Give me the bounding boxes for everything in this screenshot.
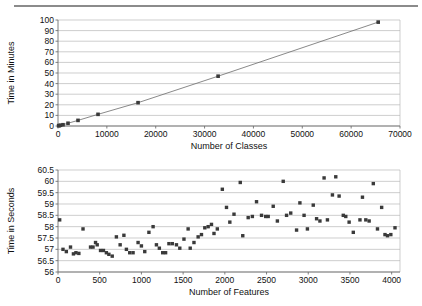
- data-point-marker: [210, 223, 213, 226]
- data-point-marker: [158, 247, 161, 250]
- data-point-marker: [118, 243, 121, 246]
- data-point-marker: [175, 243, 178, 246]
- data-point-marker: [364, 218, 367, 221]
- data-point-marker: [334, 175, 337, 178]
- data-point-marker: [151, 225, 154, 228]
- data-point-marker: [76, 119, 80, 123]
- data-point-marker: [212, 232, 215, 235]
- data-point-marker: [380, 206, 383, 209]
- data-point-marker: [182, 237, 185, 240]
- y-tick-label: 50: [45, 68, 55, 78]
- data-point-marker: [347, 220, 350, 223]
- x-tick-label: 70000: [388, 129, 412, 139]
- data-point-marker: [58, 218, 61, 221]
- data-point-marker: [186, 227, 189, 230]
- data-point-marker: [267, 215, 270, 218]
- x-tick-label: 30000: [193, 129, 217, 139]
- data-point-marker: [312, 203, 315, 206]
- data-point-marker: [241, 234, 244, 237]
- data-point-marker: [246, 216, 249, 219]
- data-point-marker: [282, 180, 285, 183]
- data-point-marker: [232, 213, 235, 216]
- x-axis-title: Number of Features: [189, 287, 270, 297]
- data-point-marker: [221, 188, 224, 191]
- data-point-marker: [206, 225, 209, 228]
- data-point-marker: [228, 220, 231, 223]
- data-point-marker: [358, 218, 361, 221]
- y-axis-title: Time in Minutes: [6, 41, 16, 105]
- data-point-marker: [143, 250, 146, 253]
- data-point-marker: [147, 231, 150, 234]
- x-tick-label: 20000: [144, 129, 168, 139]
- data-point-marker: [189, 247, 192, 250]
- data-point-marker: [171, 242, 174, 245]
- y-tick-label: 60: [45, 176, 55, 186]
- data-point-marker: [203, 226, 206, 229]
- data-point-marker: [164, 251, 167, 254]
- data-point-marker: [367, 219, 370, 222]
- data-point-marker: [251, 215, 254, 218]
- data-point-marker: [192, 241, 195, 244]
- data-point-marker: [255, 200, 258, 203]
- chart-top-canvas: 0102030405060708090100010000200003000040…: [0, 10, 422, 153]
- data-point-marker: [295, 228, 298, 231]
- data-point-marker: [200, 233, 203, 236]
- chart-bottom-canvas: 5656.55757.55858.55959.56060.50500100015…: [0, 160, 422, 306]
- data-point-marker: [393, 226, 396, 229]
- data-point-marker: [155, 243, 158, 246]
- x-tick-label: 3000: [299, 275, 318, 285]
- data-point-marker: [61, 248, 64, 251]
- y-tick-label: 58.5: [37, 210, 54, 220]
- x-tick-label: 50000: [290, 129, 314, 139]
- data-point-marker: [239, 181, 242, 184]
- data-point-marker: [61, 123, 65, 127]
- x-tick-label: 60000: [339, 129, 363, 139]
- data-point-marker: [96, 113, 100, 117]
- chart-number-of-classes: 0102030405060708090100010000200003000040…: [0, 10, 422, 153]
- y-tick-label: 80: [45, 36, 55, 46]
- data-point-marker: [136, 101, 140, 105]
- data-point-marker: [302, 214, 305, 217]
- data-point-marker: [66, 121, 70, 125]
- x-tick-label: 0: [56, 275, 61, 285]
- data-point-marker: [99, 249, 102, 252]
- data-point-marker: [128, 251, 131, 254]
- x-axis-title: Number of Classes: [191, 141, 268, 151]
- data-point-marker: [167, 242, 170, 245]
- data-point-marker: [131, 251, 134, 254]
- data-point-marker: [289, 211, 292, 214]
- x-tick-label: 500: [93, 275, 107, 285]
- data-point-marker: [115, 235, 118, 238]
- y-tick-label: 70: [45, 47, 55, 57]
- y-tick-label: 60: [45, 57, 55, 67]
- y-tick-label: 20: [45, 100, 55, 110]
- y-tick-label: 10: [45, 110, 55, 120]
- data-point-marker: [276, 219, 279, 222]
- x-tick-label: 1000: [132, 275, 151, 285]
- data-point-marker: [107, 253, 110, 256]
- data-point-marker: [136, 241, 139, 244]
- y-tick-label: 56: [45, 267, 55, 277]
- data-point-marker: [69, 245, 72, 248]
- x-tick-label: 2000: [215, 275, 234, 285]
- data-point-marker: [216, 227, 219, 230]
- figure-page: 0102030405060708090100010000200003000040…: [0, 0, 422, 306]
- y-tick-label: 0: [49, 121, 54, 131]
- data-point-marker: [122, 234, 125, 237]
- data-point-marker: [260, 214, 263, 217]
- data-point-marker: [96, 243, 99, 246]
- data-point-marker: [77, 252, 80, 255]
- x-tick-label: 1500: [174, 275, 193, 285]
- y-tick-label: 59: [45, 199, 55, 209]
- data-point-marker: [361, 196, 364, 199]
- y-tick-label: 59.5: [37, 188, 54, 198]
- data-point-marker: [372, 182, 375, 185]
- y-tick-label: 60.5: [37, 165, 54, 175]
- data-point-marker: [331, 193, 334, 196]
- data-point-marker: [65, 250, 68, 253]
- data-point-marker: [272, 205, 275, 208]
- series-connecting-line: [59, 22, 379, 126]
- data-point-marker: [386, 234, 389, 237]
- data-point-marker: [315, 217, 318, 220]
- y-tick-label: 57: [45, 244, 55, 254]
